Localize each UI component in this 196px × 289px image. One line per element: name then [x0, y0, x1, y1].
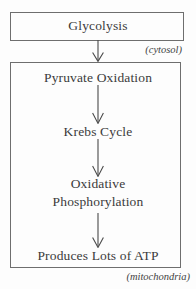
arrow-oxidative-phosphorylation-to-produces-atp: [88, 213, 108, 248]
arrow-pyruvate-oxidation-to-krebs-cycle: [88, 85, 108, 124]
stage-oxidative-phosphorylation: Oxidative Phosphorylation: [0, 175, 196, 210]
stage-produces-atp-label: Produces Lots of ATP: [0, 248, 196, 263]
stage-produces-atp: Produces Lots of ATP: [0, 248, 196, 263]
cellular-respiration-flowchart: Glycolysis (cytosol) Pyruvate Oxidation …: [0, 0, 196, 289]
stage-krebs-cycle: Krebs Cycle: [0, 124, 196, 139]
stage-krebs-cycle-label: Krebs Cycle: [0, 124, 196, 139]
stage-oxidative-phosphorylation-label-line1: Oxidative: [0, 175, 196, 193]
compartment-label-mitochondria: (mitochondria): [126, 271, 190, 283]
compartment-label-cytosol: (cytosol): [145, 44, 182, 56]
stage-pyruvate-oxidation: Pyruvate Oxidation: [0, 70, 196, 85]
stage-glycolysis-label: Glycolysis: [0, 18, 196, 33]
arrow-glycolysis-to-pyruvate-oxidation: [88, 40, 108, 62]
stage-glycolysis: Glycolysis: [0, 18, 196, 33]
stage-pyruvate-oxidation-label: Pyruvate Oxidation: [0, 70, 196, 85]
arrow-krebs-cycle-to-oxidative-phosphorylation: [88, 139, 108, 177]
stage-oxidative-phosphorylation-label-line2: Phosphorylation: [0, 193, 196, 211]
